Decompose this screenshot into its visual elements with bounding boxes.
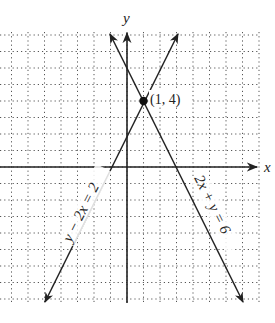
intersection-point bbox=[139, 97, 147, 105]
x-axis-label: x bbox=[263, 159, 271, 175]
y-axis-label: y bbox=[121, 10, 130, 26]
intersection-label: (1, 4) bbox=[150, 92, 181, 108]
graph: x y (1, 4) y − 2x = 2 2x + y = 6 bbox=[0, 0, 275, 323]
line2-label: 2x + y = 6 bbox=[191, 172, 234, 236]
line-y-minus-2x-eq-2 bbox=[45, 34, 178, 302]
line1-label: y − 2x = 2 bbox=[58, 180, 102, 246]
